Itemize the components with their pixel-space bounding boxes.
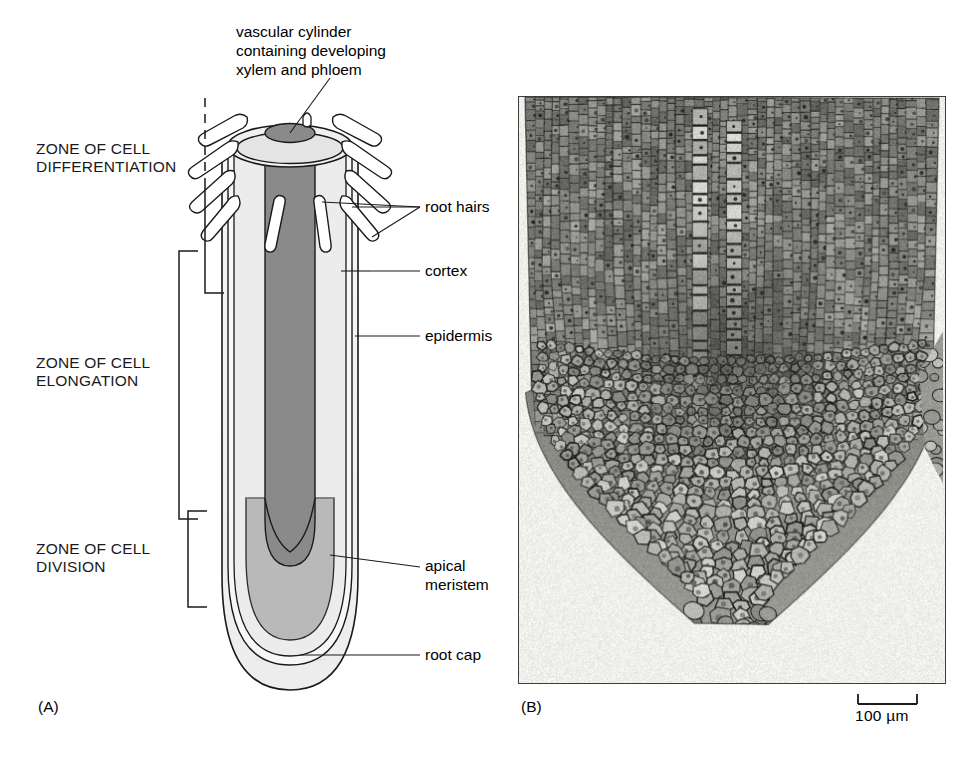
rim-nub — [303, 113, 311, 127]
zone-label-elongation: ZONE OF CELL ELONGATION — [36, 354, 150, 390]
figure-root: ZONE OF CELL DIFFERENTIATION ZONE OF CEL… — [0, 0, 979, 759]
bracket-division — [188, 511, 207, 607]
callout-root-hairs: root hairs — [425, 197, 490, 216]
micrograph-panel-b — [518, 96, 946, 684]
zone-label-differentiation: ZONE OF CELL DIFFERENTIATION — [36, 140, 177, 176]
callout-apical-meristem: apical meristem — [425, 556, 489, 594]
callout-epidermis: epidermis — [425, 326, 492, 345]
bracket-elongation — [179, 251, 198, 519]
callout-vascular-cylinder: vascular cylinder containing developing … — [236, 22, 386, 79]
panel-letter-b: (B) — [521, 698, 542, 716]
root-tip-micrograph-image — [519, 97, 945, 683]
panel-letter-a: (A) — [38, 698, 59, 716]
zone-label-division: ZONE OF CELL DIVISION — [36, 540, 150, 576]
scale-bar — [858, 694, 917, 704]
scale-bar-label: 100 µm — [855, 707, 909, 725]
callout-root-cap: root cap — [425, 645, 481, 664]
callout-cortex: cortex — [425, 261, 467, 280]
